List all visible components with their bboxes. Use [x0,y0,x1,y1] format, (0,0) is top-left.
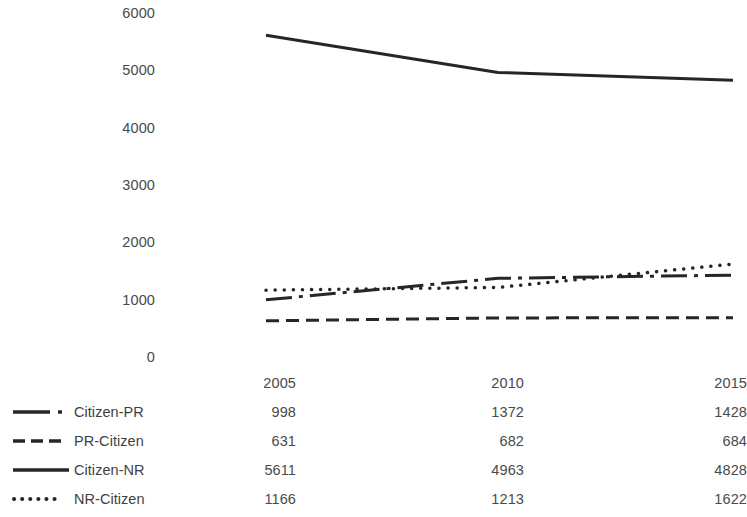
cell-citizen-pr-2015: 1428 [524,404,747,420]
cell-pr-citizen-2005: 631 [156,433,296,449]
column-header-2015: 2015 [524,375,747,391]
cell-citizen-nr-2005: 5611 [156,462,296,478]
cell-citizen-nr-2010: 4963 [296,462,524,478]
cell-pr-citizen-2015: 684 [524,433,747,449]
series-line-pr-citizen [266,318,733,321]
table-row: Citizen-NR 5611 4963 4828 [0,455,747,484]
legend-entry-citizen-nr: Citizen-NR [0,455,156,484]
legend-entry-citizen-pr: Citizen-PR [0,397,156,426]
series-label: NR-Citizen [74,491,145,507]
column-header-2010: 2010 [296,375,524,391]
chart-data-table: 2005 2010 2015 Citizen-PR 998 1372 1428 [0,368,747,517]
legend-entry-nr-citizen: NR-Citizen [0,484,156,513]
solid-line-marker [12,463,70,477]
line-chart-with-data-table: 6000 5000 4000 3000 2000 1000 0 2005 201… [0,0,747,517]
table-row: NR-Citizen 1166 1213 1622 [0,484,747,513]
cell-nr-citizen-2010: 1213 [296,491,524,507]
cell-citizen-pr-2010: 1372 [296,404,524,420]
series-line-citizen-nr [266,35,733,80]
table-row: Citizen-PR 998 1372 1428 [0,397,747,426]
cell-citizen-nr-2015: 4828 [524,462,747,478]
dash-dot-line-marker [12,405,70,419]
table-header-row: 2005 2010 2015 [0,368,747,397]
legend-entry-pr-citizen: PR-Citizen [0,426,156,455]
table-row: PR-Citizen 631 682 684 [0,426,747,455]
cell-citizen-pr-2005: 998 [156,404,296,420]
cell-nr-citizen-2015: 1622 [524,491,747,507]
series-label: PR-Citizen [74,433,144,449]
series-label: Citizen-NR [74,462,145,478]
plot-area: 6000 5000 4000 3000 2000 1000 0 [0,0,747,368]
series-plot-svg [0,0,747,368]
series-label: Citizen-PR [74,404,144,420]
series-line-citizen-pr [266,275,733,300]
dotted-line-marker [12,492,70,506]
cell-pr-citizen-2010: 682 [296,433,524,449]
cell-nr-citizen-2005: 1166 [156,491,296,507]
column-header-2005: 2005 [156,375,296,391]
dashed-line-marker [12,434,70,448]
